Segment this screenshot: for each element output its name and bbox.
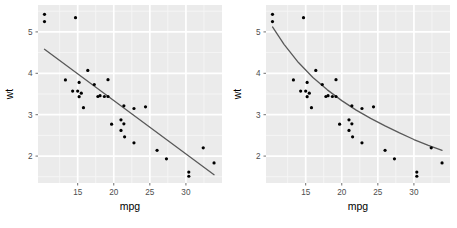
data-point [331, 95, 334, 98]
data-point [76, 90, 79, 93]
y-tick-label: 5 [28, 28, 33, 37]
y-tick-label: 5 [256, 28, 261, 37]
data-point [292, 78, 295, 81]
data-point [360, 107, 363, 110]
data-point [43, 20, 46, 23]
data-point [86, 69, 89, 72]
data-point [310, 106, 313, 109]
y-tick-label: 2 [256, 152, 261, 161]
data-point [415, 175, 418, 178]
x-tick-label: 25 [145, 188, 155, 197]
x-tick-label: 30 [409, 188, 419, 197]
y-axis-title: wt [231, 89, 243, 101]
data-point [393, 157, 396, 160]
data-point [347, 118, 350, 121]
data-point [202, 146, 205, 149]
x-tick-label: 20 [337, 188, 347, 197]
data-point [187, 175, 190, 178]
y-axis: 2345 [28, 28, 38, 161]
data-point [106, 78, 109, 81]
x-tick-label: 25 [373, 188, 383, 197]
data-point [299, 90, 302, 93]
data-point [351, 135, 354, 138]
data-point [110, 123, 113, 126]
data-point [271, 20, 274, 23]
data-point [324, 95, 327, 98]
data-point [132, 141, 135, 144]
x-axis-title: mpg [348, 200, 369, 212]
data-point [430, 146, 433, 149]
data-point [64, 78, 67, 81]
data-point [165, 157, 168, 160]
left-panel: 152025302345mpgwt [0, 0, 228, 228]
x-axis: 15202530 [73, 183, 191, 197]
y-tick-label: 4 [28, 69, 33, 78]
right-panel: 152025302345mpgwt [228, 0, 456, 228]
data-point [304, 90, 307, 93]
data-point [440, 161, 443, 164]
data-point [314, 69, 317, 72]
data-point [350, 122, 353, 125]
data-point [415, 170, 418, 173]
data-point [71, 90, 74, 93]
data-point [360, 141, 363, 144]
data-point [74, 16, 77, 19]
data-point [96, 95, 99, 98]
data-point [43, 13, 46, 16]
data-point [123, 135, 126, 138]
data-point [93, 83, 96, 86]
data-point [350, 104, 353, 107]
x-tick-label: 15 [73, 188, 83, 197]
data-point [106, 95, 109, 98]
data-point [334, 78, 337, 81]
data-point [103, 95, 106, 98]
data-point [306, 95, 309, 98]
data-point [144, 105, 147, 108]
data-point [122, 122, 125, 125]
data-point [347, 129, 350, 132]
data-point [155, 149, 158, 152]
x-axis: 15202530 [301, 183, 419, 197]
data-point [383, 149, 386, 152]
data-point [334, 95, 337, 98]
data-point [338, 123, 341, 126]
y-tick-label: 2 [28, 152, 33, 161]
data-point [80, 92, 83, 95]
x-tick-label: 15 [301, 188, 311, 197]
data-point [78, 81, 81, 84]
data-point [78, 95, 81, 98]
data-point [271, 13, 274, 16]
x-axis-title: mpg [120, 200, 141, 212]
x-tick-label: 30 [181, 188, 191, 197]
x-tick-label: 20 [109, 188, 119, 197]
y-axis-title: wt [3, 89, 15, 101]
right-panel-svg: 152025302345mpgwt [228, 0, 456, 228]
data-point [119, 129, 122, 132]
figure-root: 152025302345mpgwt152025302345mpgwt [0, 0, 457, 228]
y-tick-label: 3 [256, 111, 261, 120]
data-point [82, 106, 85, 109]
data-point [306, 81, 309, 84]
data-point [119, 118, 122, 121]
data-point [308, 92, 311, 95]
data-point [372, 105, 375, 108]
y-axis: 2345 [256, 28, 266, 161]
data-point [122, 104, 125, 107]
data-point [132, 107, 135, 110]
data-point [187, 170, 190, 173]
y-tick-label: 4 [256, 69, 261, 78]
y-tick-label: 3 [28, 111, 33, 120]
left-panel-svg: 152025302345mpgwt [0, 0, 228, 228]
data-point [321, 83, 324, 86]
data-point [212, 161, 215, 164]
data-point [302, 16, 305, 19]
